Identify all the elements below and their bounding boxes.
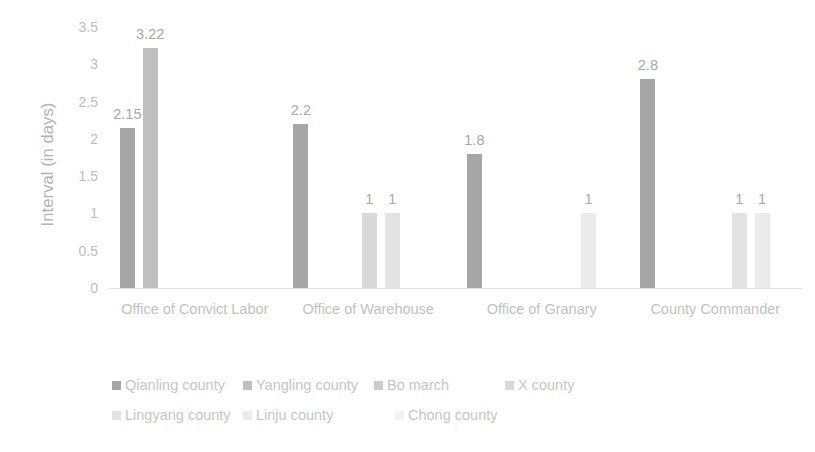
bar-value-label: 2.15 <box>113 106 141 122</box>
legend-label: Bo march <box>387 377 449 393</box>
bar <box>640 79 655 288</box>
legend-swatch-icon <box>395 411 404 420</box>
bar <box>362 213 377 288</box>
bar <box>467 154 482 288</box>
legend-label: Chong county <box>408 407 497 423</box>
bar <box>143 48 158 288</box>
legend-row: Lingyang countyLinju countyChong county <box>0 404 815 426</box>
legend-label: X county <box>518 377 574 393</box>
y-axis-tick-label: 0 <box>56 280 98 296</box>
legend-item[interactable]: Chong county <box>395 404 497 426</box>
bar <box>755 213 770 288</box>
y-axis-tick-label: 2.5 <box>56 94 98 110</box>
x-axis-category-label: County Commander <box>633 300 799 319</box>
bar-chart: Interval (in days) 00.511.522.533.5 2.15… <box>0 0 815 452</box>
bar-value-label: 3.22 <box>136 26 164 42</box>
bar-value-label: 1 <box>735 191 743 207</box>
y-axis-tick-label: 3 <box>56 56 98 72</box>
legend-swatch-icon <box>112 381 121 390</box>
bar-value-label: 1.8 <box>464 132 484 148</box>
legend-swatch-icon <box>374 381 383 390</box>
bar-value-label: 1 <box>365 191 373 207</box>
legend-label: Lingyang county <box>125 407 231 423</box>
x-axis-category-label: Office of Convict Labor <box>112 300 278 319</box>
legend-row: Qianling countyYangling countyBo marchX … <box>0 374 815 396</box>
bar-value-label: 2.2 <box>291 102 311 118</box>
x-axis-category-label: Office of Granary <box>459 300 625 319</box>
legend-item[interactable]: Qianling county <box>112 374 225 396</box>
legend-item[interactable]: X county <box>505 374 574 396</box>
y-axis-tick-label: 1.5 <box>56 168 98 184</box>
bar <box>581 213 596 288</box>
legend-label: Linju county <box>256 407 333 423</box>
bar-value-label: 1 <box>758 191 766 207</box>
x-axis-line <box>108 288 802 289</box>
bar-value-label: 1 <box>388 191 396 207</box>
x-axis-category-label: Office of Warehouse <box>286 300 452 319</box>
y-axis-tick-label: 0.5 <box>56 243 98 259</box>
bar <box>293 124 308 288</box>
bar-value-label: 1 <box>585 191 593 207</box>
legend-swatch-icon <box>112 411 121 420</box>
bar <box>732 213 747 288</box>
bar-value-label: 2.8 <box>638 57 658 73</box>
legend-item[interactable]: Lingyang county <box>112 404 231 426</box>
legend-item[interactable]: Yangling county <box>243 374 358 396</box>
y-axis-title: Interval (in days) <box>38 40 57 290</box>
legend-item[interactable]: Bo march <box>374 374 449 396</box>
legend-swatch-icon <box>505 381 514 390</box>
legend-item[interactable]: Linju county <box>243 404 333 426</box>
y-axis-tick-label: 3.5 <box>56 19 98 35</box>
legend-swatch-icon <box>243 381 252 390</box>
y-axis-tick-label: 2 <box>56 131 98 147</box>
bar <box>385 213 400 288</box>
legend-label: Qianling county <box>125 377 225 393</box>
legend-swatch-icon <box>243 411 252 420</box>
legend-label: Yangling county <box>256 377 358 393</box>
bar <box>120 128 135 288</box>
plot-area: 2.153.222.2111.812.811 <box>108 27 802 288</box>
y-axis-tick-label: 1 <box>56 205 98 221</box>
